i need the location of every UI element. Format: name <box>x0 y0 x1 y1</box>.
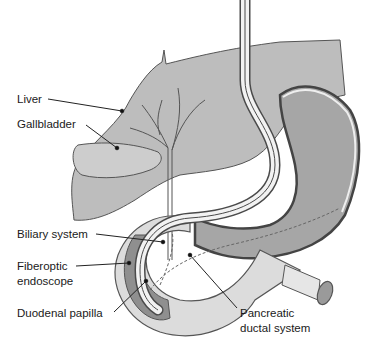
label-fiberoptic-endoscope-line2: endoscope <box>17 274 73 288</box>
label-fiberoptic-endoscope-line1: Fiberoptic <box>17 259 68 273</box>
label-pancreatic-ductal-system-line1: Pancreatic <box>240 306 294 320</box>
label-duodenal-papilla: Duodenal papilla <box>17 306 103 320</box>
label-gallbladder: Gallbladder <box>17 117 76 131</box>
label-pancreatic-ductal-system-line2: ductal system <box>240 321 310 335</box>
label-liver: Liver <box>17 92 42 106</box>
ercp-illustration <box>0 0 380 344</box>
jejunum <box>282 265 336 307</box>
label-biliary-system: Biliary system <box>17 227 88 241</box>
